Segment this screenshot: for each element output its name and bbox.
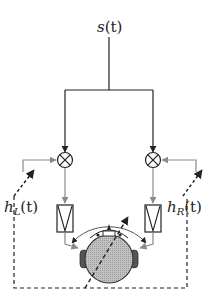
left-ear-feed-line bbox=[65, 232, 78, 248]
left-filter-icon bbox=[57, 205, 73, 232]
binaural-diagram: s(t) hL(t) hR(t) bbox=[0, 0, 219, 301]
right-ear-feed-line bbox=[140, 232, 153, 248]
source-label: s(t) bbox=[97, 18, 122, 36]
right-multiplier-icon bbox=[146, 153, 161, 168]
left-multiplier-icon bbox=[58, 153, 73, 168]
left-impulse-response-input bbox=[23, 160, 56, 172]
left-channel-label: hL(t) bbox=[4, 198, 38, 217]
listener-head-icon bbox=[80, 224, 138, 283]
right-adapt-arrow-icon bbox=[183, 170, 202, 196]
left-adapt-arrow-icon bbox=[14, 170, 34, 196]
source-distribution-lines bbox=[65, 37, 153, 152]
right-impulse-response-input bbox=[162, 160, 196, 172]
right-channel-label: hR(t) bbox=[167, 198, 202, 217]
right-filter-icon bbox=[145, 205, 161, 232]
